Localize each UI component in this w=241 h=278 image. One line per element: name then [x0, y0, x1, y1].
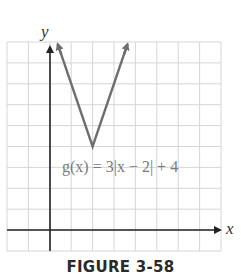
- y-axis-label: y: [41, 22, 49, 42]
- equation-label: g(x) = 3|x − 2| + 4: [62, 158, 178, 176]
- x-axis-label: x: [226, 219, 234, 239]
- figure-caption: FIGURE 3-58: [0, 258, 241, 276]
- right-arrow: [124, 44, 127, 54]
- graph: [0, 0, 241, 278]
- left-arrow: [58, 44, 61, 54]
- grid: [7, 42, 221, 251]
